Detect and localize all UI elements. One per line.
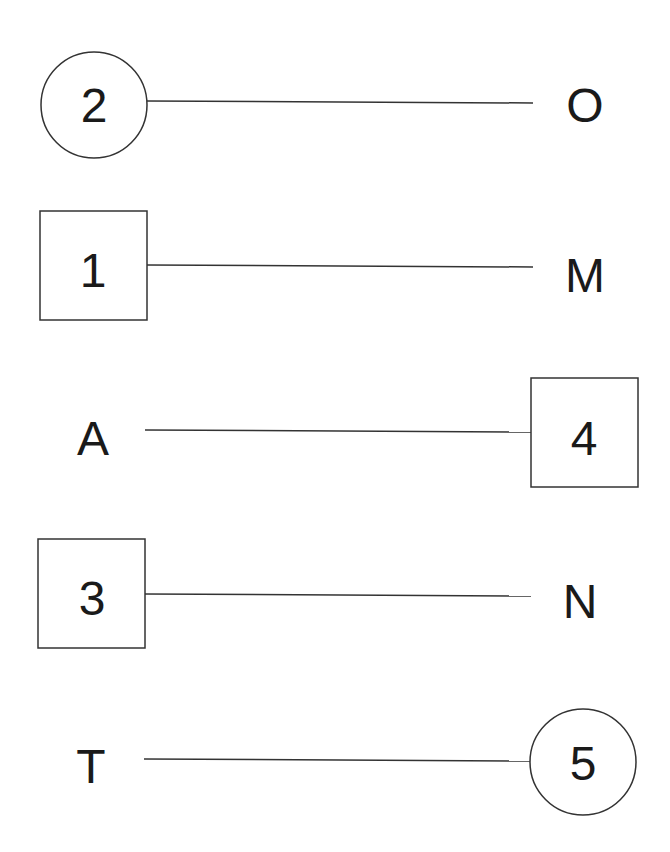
letter-N: N — [563, 575, 598, 628]
node-label-1: 1 — [80, 244, 107, 297]
letter-A: A — [77, 412, 109, 465]
node-label-3: 3 — [79, 572, 106, 625]
connector-line — [145, 594, 531, 596]
connector-line — [147, 265, 533, 267]
connector-line — [145, 430, 531, 432]
row-5: T 5 — [76, 709, 636, 815]
letter-O: O — [566, 79, 603, 132]
row-4: 3 N — [38, 539, 597, 648]
row-3: A 4 — [77, 378, 638, 487]
node-label-2: 2 — [81, 79, 108, 132]
row-1: 2 O — [41, 52, 604, 158]
connector-line — [144, 759, 530, 761]
matching-diagram: 2 O 1 M A 4 3 N T 5 — [0, 0, 670, 852]
node-label-4: 4 — [571, 412, 598, 465]
letter-M: M — [565, 249, 605, 302]
row-2: 1 M — [40, 211, 605, 320]
letter-T: T — [76, 740, 105, 793]
connector-line — [147, 101, 533, 103]
node-label-5: 5 — [570, 737, 597, 790]
